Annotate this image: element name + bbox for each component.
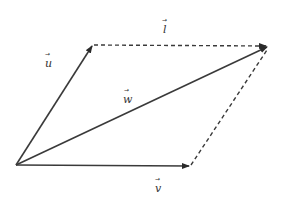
label-u: → u bbox=[45, 50, 52, 70]
vector-v-translated-dashed-line bbox=[191, 50, 267, 165]
label-v-arrow-icon: → bbox=[155, 175, 160, 182]
label-w-text: w bbox=[123, 93, 133, 106]
vector-diagram-canvas: → l → u → w → v bbox=[0, 0, 283, 201]
vector-v-line bbox=[16, 165, 189, 166]
vector-l-dashed-line bbox=[94, 45, 266, 46]
label-l-arrow-icon: → bbox=[162, 16, 167, 23]
label-v-text: v bbox=[155, 182, 162, 195]
label-v: → v bbox=[155, 175, 162, 195]
label-u-arrow-icon: → bbox=[45, 50, 50, 57]
label-l-text: l bbox=[163, 23, 167, 36]
label-w-arrow-icon: → bbox=[124, 86, 129, 93]
label-u-text: u bbox=[45, 57, 52, 70]
parallelogram-diagram: → l → u → w → v bbox=[0, 0, 283, 201]
label-w: → w bbox=[123, 86, 133, 106]
label-l: → l bbox=[162, 16, 167, 36]
